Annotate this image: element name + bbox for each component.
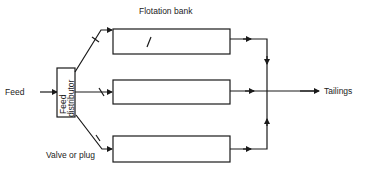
output-bottom: [230, 122, 267, 149]
flowsheet-diagram: Feed Feed distributor Flotation bank Tai…: [0, 0, 370, 172]
valve-icon-bottom: [96, 135, 100, 141]
valve-label: Valve or plug: [46, 150, 95, 160]
distributor-label-2: distributor: [66, 80, 76, 117]
flotation-bank-3: [113, 136, 230, 162]
flotation-bank-1: [113, 29, 230, 54]
branch-top: [75, 30, 112, 72]
bank-label-leader: [147, 37, 151, 47]
tailings-label: Tailings: [324, 86, 352, 96]
branch-bottom: [76, 115, 112, 149]
flotation-bank-2: [113, 80, 230, 104]
feed-label: Feed: [5, 87, 25, 97]
output-top: [230, 39, 267, 62]
flotation-bank-label: Flotation bank: [139, 6, 193, 16]
